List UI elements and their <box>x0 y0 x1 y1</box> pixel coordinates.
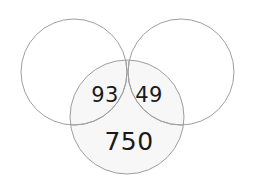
left-lens-value: 93 <box>91 83 119 107</box>
right-lens-value: 49 <box>135 83 163 107</box>
venn-diagram-canvas <box>0 0 253 188</box>
bottom-only-value: 750 <box>104 127 153 156</box>
venn-diagram: 93 49 750 <box>0 0 253 188</box>
